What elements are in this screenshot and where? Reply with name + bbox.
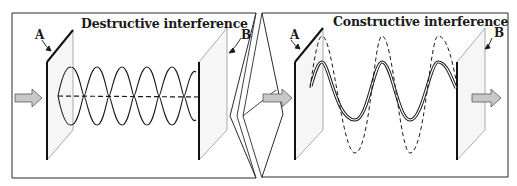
- label-b-right: B: [494, 26, 504, 40]
- interference-diagram: Destructive interference Constructive in…: [0, 0, 517, 186]
- destructive-waves: [58, 67, 199, 125]
- constructive-interference-title: Constructive interference: [333, 14, 508, 29]
- input-arrow-right-panel-icon: [263, 89, 292, 107]
- plane-a-left: [47, 30, 73, 160]
- constructive-waves: [310, 36, 456, 153]
- label-pointers: [42, 38, 492, 53]
- plane-b-left: [199, 28, 227, 160]
- destructive-interference-title: Destructive interference: [81, 16, 248, 31]
- label-a-right: A: [290, 28, 299, 42]
- label-b-left: B: [241, 28, 251, 42]
- input-arrow-icon: [15, 89, 42, 107]
- label-a-left: A: [35, 28, 44, 42]
